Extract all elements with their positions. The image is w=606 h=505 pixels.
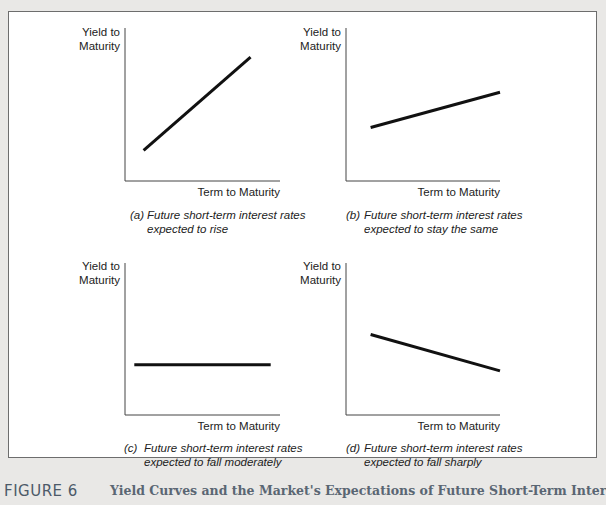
caption-line1: Future short-term interest rates (364, 209, 523, 221)
panel-letter: (a) (130, 209, 144, 221)
panel-d: Yield to Maturity Term to Maturity (d) F… (300, 260, 523, 468)
y-axis-label-line1: Yield to (303, 260, 341, 272)
panel-a: Yield to Maturity Term to Maturity (a) F… (79, 26, 306, 235)
caption-line1: Future short-term interest rates (147, 209, 306, 221)
figure-caption: FIGURE 6 Yield Curves and the Market's E… (0, 482, 606, 505)
figure-title: Yield Curves and the Market's Expectatio… (110, 483, 606, 498)
panel-c: Yield to Maturity Term to Maturity (c) F… (79, 260, 303, 468)
panel-letter: (c) (124, 442, 138, 454)
yield-curve-line (144, 57, 251, 150)
yield-curve-line (371, 92, 500, 127)
caption-line2: expected to stay the same (364, 223, 498, 235)
y-axis-label-line1: Yield to (82, 26, 120, 38)
y-axis-label-line2: Maturity (300, 40, 341, 52)
x-axis-label: Term to Maturity (198, 420, 281, 432)
yield-curve-line (371, 334, 500, 370)
y-axis-label-line1: Yield to (303, 26, 341, 38)
figure-number: FIGURE 6 (4, 482, 78, 500)
caption-line1: Future short-term interest rates (144, 442, 303, 454)
x-axis-label: Term to Maturity (418, 186, 501, 198)
y-axis-label-line2: Maturity (79, 40, 120, 52)
x-axis-label: Term to Maturity (418, 420, 501, 432)
caption-line2: expected to rise (147, 223, 228, 235)
caption-line1: Future short-term interest rates (364, 442, 523, 454)
x-axis-label: Term to Maturity (198, 186, 281, 198)
panel-letter: (d) (346, 442, 360, 454)
yield-curve-charts: Yield to Maturity Term to Maturity (a) F… (0, 0, 606, 505)
caption-line2: expected to fall sharply (364, 456, 483, 468)
caption-line2: expected to fall moderately (144, 456, 283, 468)
y-axis-label-line2: Maturity (79, 274, 120, 286)
y-axis-label-line2: Maturity (300, 274, 341, 286)
panel-letter: (b) (346, 209, 360, 221)
y-axis-label-line1: Yield to (82, 260, 120, 272)
panel-b: Yield to Maturity Term to Maturity (b) F… (300, 26, 523, 235)
